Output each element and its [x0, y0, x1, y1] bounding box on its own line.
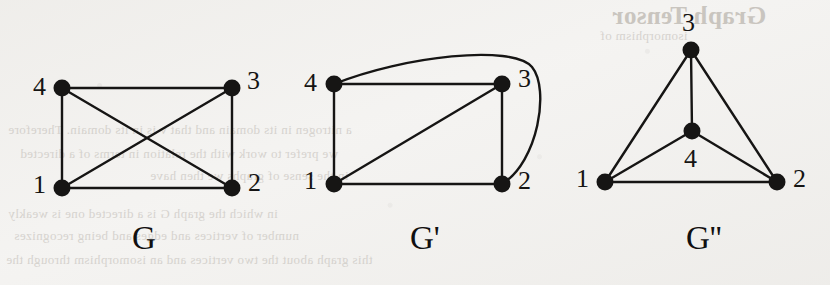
edge-4-2: [692, 131, 777, 182]
graph-G-prime: [326, 55, 541, 193]
graph-isomorphism-figure: Graph Tensorisomorphism ofa nitrogen in …: [0, 0, 830, 285]
node-3: [224, 80, 241, 97]
node-label-4: 4: [684, 146, 697, 172]
node-4: [684, 123, 701, 140]
edge-1-3: [334, 84, 502, 184]
edge-3-2: [691, 50, 777, 182]
node-label-3: 3: [247, 68, 260, 94]
graph-G: [54, 80, 241, 197]
node-label-1: 1: [576, 166, 589, 192]
graph-caption-G-prime: G': [410, 222, 440, 255]
node-label-1: 1: [304, 168, 317, 194]
node-4: [54, 80, 71, 97]
node-1: [597, 174, 614, 191]
edge-3-1: [605, 50, 691, 182]
node-label-3: 3: [682, 10, 695, 36]
node-label-2: 2: [248, 170, 261, 196]
node-1: [54, 180, 71, 197]
node-4: [326, 76, 343, 93]
node-3: [683, 42, 700, 59]
node-label-1: 1: [33, 172, 46, 198]
node-3: [494, 76, 511, 93]
node-2: [769, 174, 786, 191]
node-1: [326, 176, 343, 193]
node-2: [494, 176, 511, 193]
node-label-2: 2: [793, 166, 806, 192]
node-label-4: 4: [33, 74, 46, 100]
graph-caption-G: G: [132, 222, 156, 255]
node-label-2: 2: [518, 168, 531, 194]
edge-3-4: [691, 50, 692, 131]
node-label-3: 3: [518, 66, 531, 92]
edge-4-1: [605, 131, 692, 182]
node-label-4: 4: [304, 70, 317, 96]
graph-caption-G-double-prime: G'': [686, 222, 722, 255]
node-2: [224, 180, 241, 197]
